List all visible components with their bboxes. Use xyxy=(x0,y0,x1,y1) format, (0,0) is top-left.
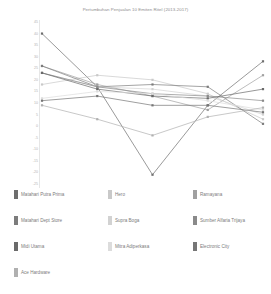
data-point-marker xyxy=(262,123,264,125)
legend-item[interactable]: Electronic City xyxy=(193,240,229,252)
legend-item-label: Hero xyxy=(115,191,125,198)
data-point-marker xyxy=(96,118,98,120)
data-point-marker xyxy=(262,100,264,102)
series-line xyxy=(41,104,264,136)
legend-color-swatch xyxy=(14,242,18,251)
data-point-marker xyxy=(41,32,43,34)
legend-item[interactable]: Ace Hardware xyxy=(14,266,50,278)
data-point-marker xyxy=(41,100,43,102)
legend-item-label: Matahari Putra Prima xyxy=(21,191,64,198)
legend-color-swatch xyxy=(108,242,112,251)
chart-screenshot: Pertumbuhan Penjualan 10 Emiten Ritel (2… xyxy=(0,0,271,294)
legend-item-label: Mitra Adiperkasa xyxy=(115,243,149,250)
data-point-marker xyxy=(262,107,264,109)
data-point-marker xyxy=(262,109,264,111)
data-point-marker xyxy=(151,88,153,90)
data-point-marker xyxy=(207,97,209,99)
legend-row: Matahari Putra PrimaHeroRamayana xyxy=(0,188,271,214)
legend-item-label: Ramayana xyxy=(200,191,222,198)
data-point-marker xyxy=(207,86,209,88)
legend-item[interactable]: Midi Utama xyxy=(14,240,44,252)
legend-item-label: Matahari Dept Store xyxy=(21,217,62,224)
legend-row: Ace Hardware xyxy=(0,266,271,292)
data-point-marker xyxy=(96,83,98,85)
legend-color-swatch xyxy=(14,268,18,277)
legend-item[interactable]: Hero xyxy=(108,188,125,200)
legend-item-label: Sumber Alfaria Trijaya xyxy=(200,217,245,224)
legend-item[interactable]: Supra Boga xyxy=(108,214,139,226)
line-series-canvas xyxy=(0,18,271,188)
legend-color-swatch xyxy=(14,216,18,225)
data-point-marker xyxy=(41,72,43,74)
data-point-marker xyxy=(207,93,209,95)
legend-color-swatch xyxy=(108,216,112,225)
data-point-marker xyxy=(151,134,153,136)
data-point-marker xyxy=(262,88,264,90)
data-point-marker xyxy=(207,95,209,97)
legend-item[interactable]: Sumber Alfaria Trijaya xyxy=(193,214,245,226)
legend-color-swatch xyxy=(193,216,197,225)
data-point-marker xyxy=(151,83,153,85)
data-point-marker xyxy=(96,90,98,92)
data-point-marker xyxy=(41,97,43,99)
data-point-marker xyxy=(96,88,98,90)
data-point-marker xyxy=(262,74,264,76)
data-point-marker xyxy=(96,74,98,76)
legend-item[interactable]: Matahari Putra Prima xyxy=(14,188,64,200)
legend-row: Midi UtamaMitra AdiperkasaElectronic Cit… xyxy=(0,240,271,266)
legend-color-swatch xyxy=(108,190,112,199)
data-point-marker xyxy=(262,118,264,120)
data-point-marker xyxy=(207,109,209,111)
legend-color-swatch xyxy=(193,242,197,251)
chart-legend: Matahari Putra PrimaHeroRamayanaMatahari… xyxy=(0,188,271,294)
legend-item[interactable]: Ramayana xyxy=(193,188,222,200)
series-line xyxy=(41,65,264,125)
data-point-marker xyxy=(41,65,43,67)
legend-item-label: Supra Boga xyxy=(115,217,139,224)
data-point-marker xyxy=(207,104,209,106)
legend-color-swatch xyxy=(14,190,18,199)
data-point-marker xyxy=(151,95,153,97)
data-point-marker xyxy=(151,93,153,95)
legend-row: Matahari Dept StoreSupra BogaSumber Alfa… xyxy=(0,214,271,240)
data-point-marker xyxy=(151,104,153,106)
data-point-marker xyxy=(262,60,264,62)
data-point-marker xyxy=(262,111,264,113)
data-point-marker xyxy=(96,86,98,88)
data-point-marker xyxy=(151,174,153,176)
legend-item-label: Electronic City xyxy=(200,243,229,250)
legend-item-label: Midi Utama xyxy=(21,243,44,250)
data-point-marker xyxy=(96,95,98,97)
data-point-marker xyxy=(207,116,209,118)
chart-title: Pertumbuhan Penjualan 10 Emiten Ritel (2… xyxy=(0,7,271,13)
data-point-marker xyxy=(41,83,43,85)
data-point-marker xyxy=(207,100,209,102)
data-point-marker xyxy=(151,79,153,81)
data-point-marker xyxy=(41,104,43,106)
legend-color-swatch xyxy=(193,190,197,199)
plot-area: 454035302520151050-5-10-15-20-25 xyxy=(0,18,271,188)
legend-item[interactable]: Mitra Adiperkasa xyxy=(108,240,149,252)
legend-item-label: Ace Hardware xyxy=(21,269,50,276)
legend-item[interactable]: Matahari Dept Store xyxy=(14,214,62,226)
data-point-marker xyxy=(262,113,264,115)
